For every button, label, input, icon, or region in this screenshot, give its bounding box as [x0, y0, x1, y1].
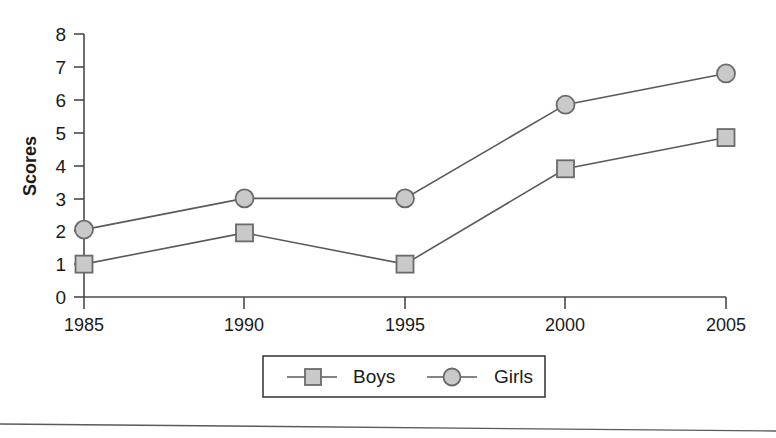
y-tick-label-1: 1 — [55, 254, 66, 275]
legend-item-girls[interactable]: Girls — [427, 366, 533, 387]
y-tick-label-2: 2 — [55, 221, 66, 242]
footer-divider-rule — [0, 424, 776, 431]
legend: Boys Girls — [263, 356, 545, 397]
y-tick-label-4: 4 — [55, 156, 66, 177]
x-tick-label-1990: 1990 — [224, 315, 264, 335]
data-point-boys-2005 — [718, 129, 735, 146]
data-point-girls-2005 — [717, 64, 735, 82]
data-point-girls-1995 — [396, 189, 414, 207]
legend-boys-square-marker — [305, 369, 321, 385]
legend-girls-circle-marker — [444, 369, 461, 386]
x-tick-label-1995: 1995 — [385, 315, 425, 335]
y-tick-label-7: 7 — [55, 57, 66, 78]
legend-girls-label: Girls — [494, 366, 533, 387]
x-tick-label-1985: 1985 — [64, 315, 104, 335]
line-chart-figure: 8 7 6 5 4 3 2 1 0 Scores 1985 1990 1995 … — [0, 0, 776, 438]
y-axis: 8 7 6 5 4 3 2 1 0 Scores — [20, 24, 84, 308]
data-point-boys-1995 — [397, 256, 414, 273]
x-tick-label-2000: 2000 — [545, 315, 585, 335]
data-point-boys-2000 — [557, 160, 574, 177]
y-tick-label-3: 3 — [55, 189, 66, 210]
data-point-boys-1985 — [76, 256, 93, 273]
data-point-boys-1990 — [236, 224, 253, 241]
legend-boys-label: Boys — [353, 366, 395, 387]
y-tick-label-0: 0 — [55, 287, 66, 308]
x-tick-label-2005: 2005 — [706, 315, 746, 335]
data-point-girls-1985 — [75, 221, 93, 239]
y-axis-title: Scores — [20, 136, 40, 196]
data-point-girls-1990 — [236, 189, 254, 207]
x-axis: 1985 1990 1995 2000 2005 — [64, 297, 746, 335]
y-tick-label-5: 5 — [55, 123, 66, 144]
legend-item-boys[interactable]: Boys — [287, 366, 395, 387]
y-tick-label-6: 6 — [55, 90, 66, 111]
data-point-girls-2000 — [557, 96, 575, 114]
y-tick-label-8: 8 — [55, 24, 66, 45]
